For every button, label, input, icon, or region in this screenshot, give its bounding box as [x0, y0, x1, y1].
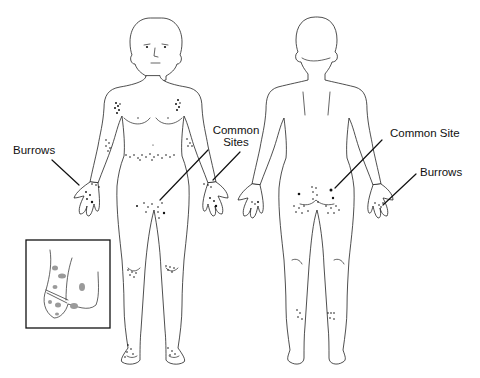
front-common-sites-leader-line-wrist — [213, 152, 240, 180]
scabies-distribution-figure — [0, 0, 480, 378]
back-burrows-label: Burrows — [420, 166, 462, 178]
front-common-sites-label-line2: Sites — [208, 136, 264, 148]
back-body-figure — [238, 17, 393, 364]
front-burrows-label: Burrows — [13, 144, 55, 156]
front-common-sites-label-line1: Common — [208, 124, 264, 136]
genital-lesion-inset — [26, 240, 110, 328]
back-common-site-label: Common Site — [390, 127, 460, 139]
front-common-sites-label: Common Sites — [208, 124, 264, 148]
front-burrows-leader-line — [52, 160, 79, 185]
